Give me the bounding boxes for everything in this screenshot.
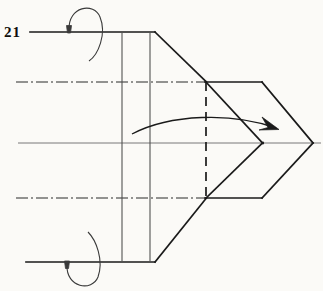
- tip-upper-inner-edge: [206, 82, 263, 144]
- tip-lower-inner-edge: [206, 143, 263, 199]
- top-rotation-arc: [69, 8, 103, 61]
- technical-figure: 21: [0, 0, 323, 291]
- centerline-group: [16, 82, 206, 198]
- bottom-rotation-arc: [67, 232, 100, 286]
- top-rotation-arrowhead: [67, 26, 72, 34]
- top-rotation-arrow: [67, 8, 103, 61]
- body-top-taper: [155, 32, 207, 82]
- internal-rib-group: [122, 33, 150, 261]
- feed-direction-arc: [132, 117, 276, 134]
- bottom-rotation-arrowhead: [65, 261, 70, 269]
- figure-drawing-canvas: [0, 0, 323, 291]
- bottom-rotation-arrow: [65, 232, 101, 286]
- body-bottom-taper: [155, 198, 207, 262]
- tip-upper-outer-edge: [262, 82, 313, 143]
- chevron-point: [205, 82, 313, 198]
- shaft-body: [26, 32, 207, 262]
- tip-lower-outer-edge: [262, 143, 313, 198]
